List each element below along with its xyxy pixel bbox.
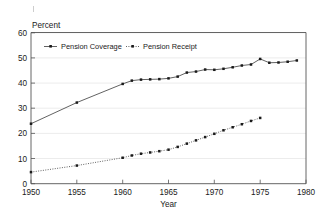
data-point-marker <box>286 60 289 63</box>
data-point-marker <box>158 78 161 81</box>
data-point-marker <box>140 152 143 155</box>
x-ticklabel-1965: 1965 <box>159 188 178 197</box>
y-ticklabel-60: 60 <box>18 29 28 38</box>
data-point-marker <box>204 136 207 139</box>
x-ticklabel-1980: 1980 <box>297 188 316 197</box>
data-point-marker <box>176 75 179 78</box>
data-point-marker <box>176 146 179 149</box>
data-point-marker <box>167 148 170 151</box>
legend-label-pension-receipt: Pension Receipt <box>143 42 197 51</box>
y-ticklabel-50: 50 <box>18 54 28 63</box>
data-point-marker <box>76 101 79 104</box>
legend-swatch-marker-solid <box>49 45 52 48</box>
data-point-marker <box>231 66 234 69</box>
x-ticklabel-1975: 1975 <box>251 188 270 197</box>
x-ticklabel-1950: 1950 <box>22 188 41 197</box>
x-ticklabel-1970: 1970 <box>205 188 224 197</box>
data-point-marker <box>250 63 253 66</box>
data-point-marker <box>204 68 207 71</box>
data-point-marker <box>149 151 152 154</box>
y-ticklabel-30: 30 <box>18 104 28 113</box>
data-point-marker <box>250 120 253 123</box>
y-ticklabel-10: 10 <box>18 155 28 164</box>
data-point-marker <box>241 123 244 126</box>
data-point-marker <box>241 64 244 67</box>
x-axis-title: Year <box>160 200 177 209</box>
data-point-marker <box>268 61 271 64</box>
data-point-marker <box>222 129 225 132</box>
data-point-marker <box>213 133 216 136</box>
x-ticklabel-1955: 1955 <box>68 188 87 197</box>
y-axis-title: Percent <box>32 21 61 30</box>
y-ticklabel-40: 40 <box>18 79 28 88</box>
data-point-marker <box>167 77 170 80</box>
data-point-marker <box>131 79 134 82</box>
data-point-marker <box>222 68 225 71</box>
data-point-marker <box>131 154 134 157</box>
data-point-marker <box>140 78 143 81</box>
data-point-marker <box>296 59 299 62</box>
data-point-marker <box>186 71 189 74</box>
data-point-marker <box>231 126 234 129</box>
data-point-marker <box>76 164 79 167</box>
data-point-marker <box>121 83 124 86</box>
data-point-marker <box>30 171 33 174</box>
data-point-marker <box>149 78 152 81</box>
data-point-marker <box>121 156 124 159</box>
chart-legend: Pension Coverage Pension Receipt <box>44 42 197 51</box>
data-point-marker <box>195 139 198 142</box>
data-point-marker <box>186 142 189 145</box>
data-point-marker <box>30 122 33 125</box>
legend-label-pension-coverage: Pension Coverage <box>61 42 122 51</box>
x-ticklabel-1960: 1960 <box>114 188 133 197</box>
legend-swatch-marker-dotted <box>131 45 134 48</box>
data-point-marker <box>195 70 198 73</box>
data-point-marker <box>277 61 280 64</box>
data-point-marker <box>259 58 262 61</box>
data-point-marker <box>158 150 161 153</box>
chart-svg: Percent 60 <box>0 0 324 218</box>
data-point-marker <box>213 69 216 72</box>
pension-chart-figure: Percent 60 <box>0 0 324 218</box>
data-point-marker <box>259 117 262 120</box>
y-ticklabel-20: 20 <box>18 129 28 138</box>
